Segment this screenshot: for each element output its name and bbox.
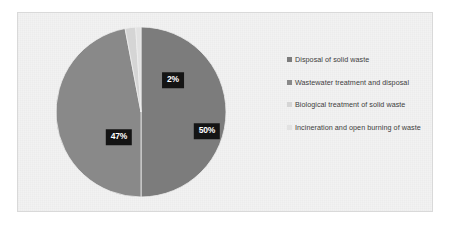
data-label-slice-1: 47% [106, 129, 132, 145]
chart-frame: 50% 47% 2% Disposal of solid waste Waste… [17, 12, 433, 212]
legend-item-label: Biological treatment of solid waste [295, 100, 405, 110]
pie-slices [56, 27, 226, 197]
legend-item-disposal-of-solid-waste[interactable]: Disposal of solid waste [287, 55, 429, 65]
legend-item-label: Wastewater treatment and disposal [295, 78, 409, 88]
chart-legend: Disposal of solid waste Wastewater treat… [287, 55, 429, 145]
plot-area: 50% 47% 2% [18, 13, 268, 211]
pie-slice[interactable] [56, 29, 141, 197]
pie-chart [56, 27, 226, 197]
pie-slice[interactable] [141, 27, 226, 197]
data-label-slice-0: 50% [194, 123, 220, 139]
legend-swatch-icon [287, 102, 292, 107]
pie-svg [56, 27, 226, 197]
legend-item-wastewater-treatment-and-disposal[interactable]: Wastewater treatment and disposal [287, 78, 429, 88]
legend-item-label: Incineration and open burning of waste [295, 123, 421, 133]
data-label-slice-2: 2% [162, 72, 184, 88]
legend-item-biological-treatment-of-solid-waste[interactable]: Biological treatment of solid waste [287, 100, 429, 110]
legend-swatch-icon [287, 57, 292, 62]
legend-item-label: Disposal of solid waste [295, 55, 369, 65]
legend-swatch-icon [287, 80, 292, 85]
legend-item-incineration-and-open-burning-of-waste[interactable]: Incineration and open burning of waste [287, 123, 429, 133]
legend-swatch-icon [287, 125, 292, 130]
